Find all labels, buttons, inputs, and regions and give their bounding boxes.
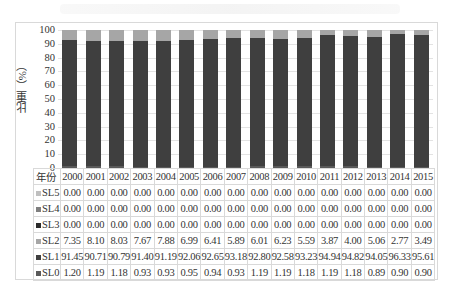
bar-segment-sl1: [179, 40, 194, 167]
table-cell: 0.00: [84, 201, 107, 217]
table-cell: 3.87: [318, 233, 341, 249]
table-cell: 94.82: [341, 249, 364, 265]
table-cell: 0.00: [201, 201, 224, 217]
bar-segment-sl1: [109, 41, 124, 166]
stacked-bar-2013: [367, 30, 382, 168]
bar-segment-sl1: [86, 41, 101, 166]
table-cell: 0.00: [224, 201, 247, 217]
table-cell: 93.23: [294, 249, 317, 265]
table-cell: 0.00: [318, 201, 341, 217]
table-cell: 0.00: [411, 201, 434, 217]
table-cell: 92.80: [248, 249, 271, 265]
legend-swatch-icon: [36, 255, 41, 260]
y-tick-label: 10: [33, 149, 55, 159]
table-cell: 1.18: [107, 265, 130, 281]
year-header: 2011: [318, 169, 341, 185]
bar-segment-sl1: [62, 40, 77, 166]
table-cell: 95.61: [411, 249, 434, 265]
bar-segment-sl1: [203, 39, 218, 167]
legend-swatch-icon: [36, 223, 41, 228]
y-tick-label: 90: [33, 39, 55, 49]
table-cell: 1.19: [318, 265, 341, 281]
series-name: SL5: [42, 187, 60, 198]
y-tick-label: 100: [33, 25, 55, 35]
stacked-bar-2002: [109, 30, 124, 168]
legend-swatch-icon: [36, 207, 41, 212]
year-header: 2007: [224, 169, 247, 185]
year-header: 2005: [177, 169, 200, 185]
y-tick-label: 20: [33, 135, 55, 145]
table-cell: 0.00: [131, 201, 154, 217]
year-header: 2000: [61, 169, 84, 185]
table-cell: 0.00: [84, 185, 107, 201]
table-cell: 2.77: [388, 233, 411, 249]
table-cell: 0.00: [154, 201, 177, 217]
table-cell: 0.00: [61, 185, 84, 201]
bar-segment-sl1: [367, 37, 382, 167]
stacked-bar-2005: [179, 30, 194, 168]
table-cell: 0.00: [365, 217, 388, 233]
table-cell: 91.45: [61, 249, 84, 265]
table-cell: 0.00: [271, 185, 294, 201]
year-header: 2003: [131, 169, 154, 185]
stacked-bar-2001: [86, 30, 101, 168]
table-cell: 1.19: [84, 265, 107, 281]
bar-segment-sl1: [133, 41, 148, 167]
data-table: 年份20002001200220032004200520062007200820…: [33, 168, 435, 281]
legend-swatch-icon: [36, 271, 41, 276]
table-cell: 0.93: [131, 265, 154, 281]
table-cell: 0.00: [248, 185, 271, 201]
table-cell: 0.00: [294, 201, 317, 217]
year-header: 2010: [294, 169, 317, 185]
table-cell: 1.19: [248, 265, 271, 281]
table-row: SL50.000.000.000.000.000.000.000.000.000…: [34, 185, 435, 201]
table-cell: 0.00: [177, 185, 200, 201]
table-cell: 1.18: [294, 265, 317, 281]
table-cell: 0.00: [201, 217, 224, 233]
stacked-bar-2006: [203, 30, 218, 168]
table-cell: 0.00: [388, 217, 411, 233]
stacked-bar-2004: [156, 30, 171, 168]
table-cell: 0.93: [154, 265, 177, 281]
table-cell: 0.90: [411, 265, 434, 281]
stacked-bar-2012: [343, 30, 358, 168]
bar-segment-sl2: [156, 30, 171, 41]
y-axis-label: 比重（%）: [14, 60, 28, 113]
series-name: SL1: [42, 251, 60, 262]
table-cell: 0.00: [154, 217, 177, 233]
table-cell: 0.00: [61, 217, 84, 233]
table-row: SL27.358.108.037.677.886.996.415.896.016…: [34, 233, 435, 249]
table-cell: 0.95: [177, 265, 200, 281]
table-cell: 90.79: [107, 249, 130, 265]
legend-entry-sl5: SL5: [34, 185, 61, 201]
table-cell: 91.40: [131, 249, 154, 265]
table-cell: 0.00: [131, 185, 154, 201]
year-header: 2002: [107, 169, 130, 185]
table-cell: 0.00: [365, 201, 388, 217]
table-cell: 0.00: [154, 185, 177, 201]
legend-entry-sl3: SL3: [34, 217, 61, 233]
table-cell: 0.00: [107, 201, 130, 217]
table-cell: 0.00: [341, 185, 364, 201]
table-cell: 0.00: [107, 185, 130, 201]
table-cell: 0.00: [271, 217, 294, 233]
year-header: 2001: [84, 169, 107, 185]
table-cell: 0.00: [177, 217, 200, 233]
table-cell: 0.94: [201, 265, 224, 281]
year-header: 2012: [341, 169, 364, 185]
y-tick-label: 30: [33, 122, 55, 132]
table-row: SL191.4590.7190.7991.4091.1992.0692.6593…: [34, 249, 435, 265]
table-cell: 0.00: [131, 217, 154, 233]
bar-segment-sl1: [156, 41, 171, 167]
table-cell: 0.00: [318, 217, 341, 233]
table-cell: 0.00: [61, 201, 84, 217]
table-cell: 7.35: [61, 233, 84, 249]
table-cell: 90.71: [84, 249, 107, 265]
table-cell: 0.00: [411, 185, 434, 201]
bar-segment-sl2: [250, 30, 265, 38]
table-cell: 1.18: [341, 265, 364, 281]
table-cell: 0.00: [411, 217, 434, 233]
table-cell: 4.00: [341, 233, 364, 249]
bar-segment-sl2: [367, 30, 382, 37]
bar-segment-sl2: [203, 30, 218, 39]
